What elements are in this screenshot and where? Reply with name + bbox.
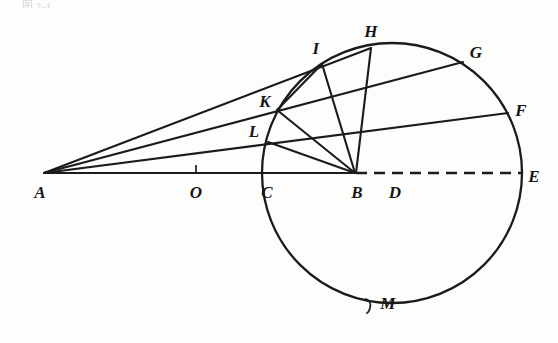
point-label-K: K — [259, 93, 271, 110]
point-label-O: O — [190, 184, 202, 201]
chord-i-to-k — [277, 64, 322, 110]
point-label-D: D — [389, 184, 401, 201]
point-label-M: M — [380, 295, 395, 312]
point-label-B: B — [351, 184, 363, 201]
geometry-figure: 图 2-4 A O C B D E F G H I K L M — [0, 0, 558, 343]
point-label-C: C — [261, 184, 273, 201]
point-label-A: A — [34, 184, 46, 201]
ray-b-to-h — [356, 48, 371, 173]
point-label-G: G — [470, 44, 482, 61]
ray-b-to-l — [268, 142, 355, 173]
ray-b-to-i — [322, 64, 355, 173]
point-label-E: E — [528, 168, 540, 185]
secant-a-l-f — [44, 113, 508, 173]
point-label-F: F — [515, 102, 527, 119]
point-label-L: L — [249, 123, 260, 140]
point-label-H: H — [364, 23, 377, 40]
point-label-I: I — [313, 40, 320, 57]
secant-a-k-g — [44, 62, 463, 173]
